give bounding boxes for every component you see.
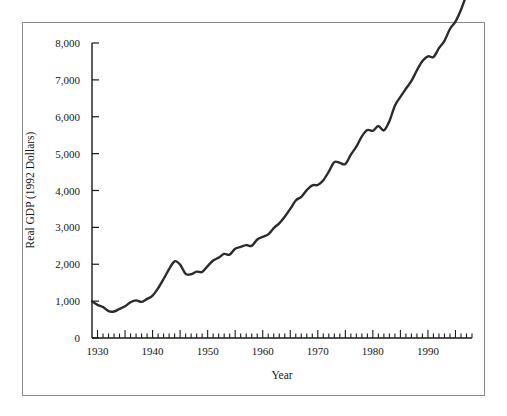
x-axis-title: Year bbox=[271, 369, 292, 381]
x-tick-label: 1980 bbox=[362, 346, 384, 357]
x-tick-label: 1990 bbox=[417, 346, 439, 357]
x-tick-label: 1970 bbox=[307, 346, 329, 357]
y-tick-label: 7,000 bbox=[34, 74, 80, 85]
y-tick-label: 1,000 bbox=[34, 296, 80, 307]
y-tick-label: 6,000 bbox=[34, 111, 80, 122]
axis-lines bbox=[92, 43, 472, 338]
y-tick-label: 2,000 bbox=[34, 259, 80, 270]
y-axis-title: Real GDP (1992 Dollars) bbox=[24, 132, 36, 249]
figure: 01,0002,0003,0004,0005,0006,0007,0008,00… bbox=[0, 0, 507, 416]
x-tick-label: 1950 bbox=[197, 346, 219, 357]
x-axis-ticks bbox=[98, 330, 472, 338]
y-tick-label: 3,000 bbox=[34, 222, 80, 233]
y-tick-label: 0 bbox=[34, 333, 80, 344]
y-tick-label: 4,000 bbox=[34, 185, 80, 196]
x-tick-label: 1940 bbox=[142, 346, 164, 357]
x-tick-label: 1930 bbox=[87, 346, 109, 357]
gdp-line-series bbox=[92, 0, 472, 312]
x-tick-label: 1960 bbox=[252, 346, 274, 357]
y-tick-label: 5,000 bbox=[34, 148, 80, 159]
y-tick-label: 8,000 bbox=[34, 38, 80, 49]
y-axis-ticks bbox=[92, 43, 99, 338]
